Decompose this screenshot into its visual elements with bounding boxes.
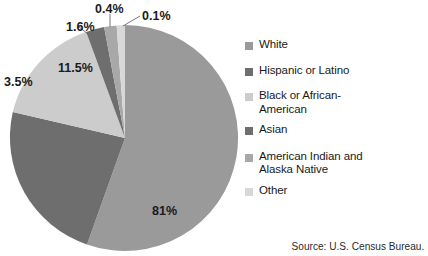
legend-item-black-african-american: Black or African-American: [245, 89, 425, 116]
legend-swatch-icon: [245, 68, 253, 76]
chart-legend: White Hispanic or Latino Black or Africa…: [245, 38, 425, 204]
legend-label: Black or African-American: [259, 89, 374, 116]
legend-swatch-icon: [245, 154, 253, 162]
leader-line-other: [123, 16, 140, 26]
slice-label-hispanic: 3.5%: [4, 76, 33, 89]
slice-label-american-indian: 0.4%: [95, 3, 124, 16]
slice-label-asian: 1.6%: [66, 21, 95, 34]
legend-label: White: [259, 38, 288, 52]
legend-label: Asian: [259, 123, 287, 137]
legend-swatch-icon: [245, 42, 253, 50]
legend-item-other: Other: [245, 184, 425, 198]
pie-chart-figure: 81% 11.5% 3.5% 1.6% 0.4% 0.1% White Hisp…: [0, 0, 428, 256]
slice-label-black: 11.5%: [58, 62, 93, 75]
legend-swatch-icon: [245, 93, 253, 101]
legend-swatch-icon: [245, 127, 253, 135]
slice-label-white: 81%: [152, 205, 177, 218]
slice-label-other: 0.1%: [142, 10, 171, 23]
legend-swatch-icon: [245, 188, 253, 196]
legend-item-hispanic: Hispanic or Latino: [245, 64, 425, 78]
legend-label: Other: [259, 184, 287, 198]
legend-label: American Indian and Alaska Native: [259, 150, 384, 177]
legend-item-white: White: [245, 38, 425, 52]
pie-plot-area: 81% 11.5% 3.5% 1.6% 0.4% 0.1%: [0, 0, 248, 256]
legend-item-asian: Asian: [245, 123, 425, 137]
legend-item-american-indian-alaska-native: American Indian and Alaska Native: [245, 150, 425, 177]
legend-label: Hispanic or Latino: [259, 64, 349, 78]
pie-graphic: [0, 0, 248, 256]
source-attribution: Source: U.S. Census Bureau.: [291, 240, 424, 252]
